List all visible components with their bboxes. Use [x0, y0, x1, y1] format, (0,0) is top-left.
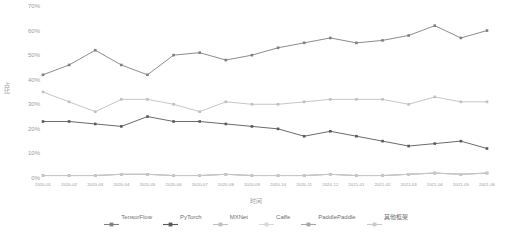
data-point: [198, 51, 201, 54]
data-point: [225, 59, 228, 62]
data-point: [277, 128, 280, 131]
legend-marker-icon: [213, 214, 228, 221]
data-point: [329, 37, 332, 40]
data-point: [251, 174, 254, 177]
x-axis-title: 时间: [0, 196, 512, 205]
data-point: [68, 120, 71, 123]
data-point: [460, 37, 463, 40]
data-point: [329, 98, 332, 101]
data-point: [433, 96, 436, 99]
data-point: [146, 173, 149, 176]
data-point: [355, 98, 358, 101]
legend-label: TensorFlow: [121, 214, 152, 221]
legend-marker-icon: [301, 214, 316, 221]
data-point: [172, 120, 175, 123]
data-point: [94, 49, 97, 52]
data-point: [277, 174, 280, 177]
data-point: [198, 110, 201, 113]
data-point: [198, 120, 201, 123]
data-point: [303, 42, 306, 45]
data-point: [329, 130, 332, 133]
data-point: [381, 140, 384, 143]
data-point: [172, 174, 175, 177]
data-point: [198, 174, 201, 177]
legend-item-其他框架[interactable]: 其他框架: [367, 214, 408, 221]
series-line: [43, 26, 487, 75]
data-point: [329, 173, 332, 176]
data-point: [225, 173, 228, 176]
data-point: [251, 54, 254, 57]
legend-label: PaddlePaddle: [318, 214, 355, 221]
legend-marker-icon: [259, 214, 274, 221]
legend-label: MXNet: [230, 214, 248, 221]
data-point: [94, 110, 97, 113]
legend-label: Caffe: [276, 214, 290, 221]
chart-legend: TensorFlowPyTorchMXNetCaffePaddlePaddle其…: [0, 214, 512, 221]
data-point: [355, 174, 358, 177]
data-point: [277, 46, 280, 49]
data-point: [433, 172, 436, 175]
plot-area: 占比 0%10%20%30%40%50%60%70% 2020-012020-0…: [0, 0, 512, 236]
data-point: [42, 174, 45, 177]
data-point: [460, 140, 463, 143]
data-point: [277, 103, 280, 106]
legend-label: 其他框架: [384, 214, 408, 221]
data-point: [303, 135, 306, 138]
data-point: [146, 115, 149, 118]
data-point: [42, 91, 45, 94]
data-point: [172, 103, 175, 106]
series-PyTorch: [42, 115, 489, 150]
data-point: [460, 173, 463, 176]
series-PaddlePaddle: [42, 172, 489, 177]
series-Caffe: [42, 172, 489, 177]
data-point: [251, 103, 254, 106]
legend-item-Caffe[interactable]: Caffe: [259, 214, 290, 221]
series-TensorFlow: [42, 24, 489, 76]
data-point: [355, 42, 358, 45]
series-其他框架: [42, 172, 489, 177]
data-point: [225, 123, 228, 126]
data-point: [68, 174, 71, 177]
data-point: [407, 145, 410, 148]
data-point: [433, 142, 436, 145]
series-line: [43, 117, 487, 149]
data-point: [407, 34, 410, 37]
data-point: [407, 103, 410, 106]
data-point: [303, 101, 306, 104]
data-point: [68, 64, 71, 67]
data-point: [68, 101, 71, 104]
data-point: [225, 101, 228, 104]
data-point: [407, 173, 410, 176]
data-point: [172, 54, 175, 57]
data-point: [120, 98, 123, 101]
data-point: [42, 74, 45, 77]
legend-item-PyTorch[interactable]: PyTorch: [163, 214, 202, 221]
data-point: [146, 98, 149, 101]
line-chart: 占比 0%10%20%30%40%50%60%70% 2020-012020-0…: [0, 0, 512, 236]
legend-item-TensorFlow[interactable]: TensorFlow: [104, 214, 152, 221]
series-line: [43, 173, 487, 175]
data-point: [94, 174, 97, 177]
data-point: [486, 101, 489, 104]
legend-marker-icon: [163, 214, 178, 221]
data-point: [355, 135, 358, 138]
legend-item-MXNet[interactable]: MXNet: [213, 214, 248, 221]
data-point: [486, 147, 489, 150]
data-point: [486, 172, 489, 175]
data-point: [120, 64, 123, 67]
data-point: [381, 174, 384, 177]
data-point: [486, 29, 489, 32]
data-point: [381, 98, 384, 101]
data-point: [120, 125, 123, 128]
legend-marker-icon: [367, 214, 382, 221]
series-MXNet: [42, 91, 489, 113]
data-point: [433, 24, 436, 27]
legend-marker-icon: [104, 214, 119, 221]
series-line: [43, 92, 487, 112]
legend-item-PaddlePaddle[interactable]: PaddlePaddle: [301, 214, 355, 221]
data-point: [42, 120, 45, 123]
legend-label: PyTorch: [180, 214, 202, 221]
data-point: [94, 123, 97, 126]
data-point: [460, 101, 463, 104]
data-point: [303, 174, 306, 177]
